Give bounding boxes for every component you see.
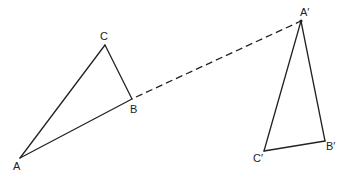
label-a-prime: A′ (300, 6, 309, 18)
edge-ab (20, 99, 132, 158)
label-a: A (13, 160, 21, 172)
vertex-dot-a-prime (299, 19, 302, 22)
edge-b-prime-c-prime (264, 141, 325, 151)
label-c-prime: C′ (253, 152, 263, 164)
edge-bc (105, 45, 132, 99)
triangle-a-prime-b-prime-c-prime (264, 19, 325, 151)
diagram-canvas: A B C A′ B′ C′ (0, 0, 346, 174)
triangle-abc (20, 45, 132, 158)
edge-a-prime-b-prime (301, 21, 325, 141)
dashed-connector-b-to-a-prime (136, 21, 301, 97)
label-c: C (100, 30, 108, 42)
label-b-prime: B′ (326, 140, 335, 152)
label-b: B (130, 103, 137, 115)
edge-c-prime-a-prime (264, 21, 301, 151)
edge-ca (20, 45, 105, 158)
